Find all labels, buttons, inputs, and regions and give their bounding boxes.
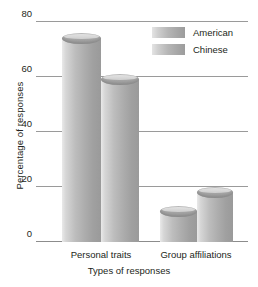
legend-swatch-chinese bbox=[152, 44, 185, 55]
legend-label-chinese: Chinese bbox=[193, 44, 228, 55]
bar-body bbox=[197, 192, 233, 242]
bar-body bbox=[62, 38, 101, 242]
bar-chart: Percentage of responses 80 60 40 20 0 P bbox=[0, 0, 258, 287]
bar-chinese-personal-traits bbox=[101, 74, 139, 242]
legend-item-chinese: Chinese bbox=[152, 41, 233, 58]
bar-cap-ellipse bbox=[62, 33, 101, 44]
y-tick-label-20: 20 bbox=[8, 174, 32, 184]
bar-american-group-affiliations bbox=[160, 206, 197, 242]
bar-cap-ellipse bbox=[101, 74, 139, 85]
y-axis-title: Percentage of responses bbox=[14, 51, 25, 221]
bar-cap-highlight bbox=[64, 34, 98, 39]
legend-swatch-american bbox=[152, 27, 185, 38]
y-tick-label-0: 0 bbox=[8, 229, 32, 239]
bar-cap-ellipse bbox=[197, 187, 233, 198]
x-axis-title: Types of responses bbox=[0, 265, 258, 276]
legend-item-american: American bbox=[152, 24, 233, 41]
legend-label-american: American bbox=[193, 27, 233, 38]
bar-cap-highlight bbox=[162, 207, 195, 212]
legend: American Chinese bbox=[152, 24, 233, 58]
bar-american-personal-traits bbox=[62, 33, 101, 242]
bar-cap-highlight bbox=[199, 188, 231, 193]
bar-chinese-group-affiliations bbox=[197, 187, 233, 242]
bar-body bbox=[101, 79, 139, 242]
bar-cap-highlight bbox=[103, 75, 136, 80]
x-tick-label-group-affiliations: Group affiliations bbox=[136, 249, 256, 260]
y-tick-label-80: 80 bbox=[8, 9, 32, 19]
gridline-80 bbox=[36, 21, 248, 22]
y-tick-label-40: 40 bbox=[8, 119, 32, 129]
bar-cap-ellipse bbox=[160, 206, 197, 217]
y-tick-label-60: 60 bbox=[8, 64, 32, 74]
